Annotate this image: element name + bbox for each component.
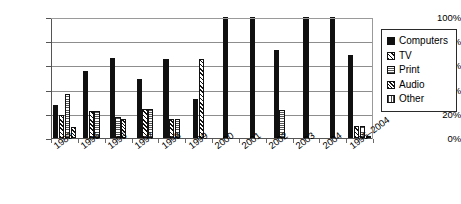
- legend-swatch-icon: [387, 81, 395, 89]
- x-tick-mark: [373, 139, 374, 143]
- bar: [274, 50, 279, 138]
- legend-item: Print: [387, 63, 452, 78]
- y-tick-label: 100%: [417, 13, 461, 23]
- legend-item-label: Audio: [399, 80, 425, 90]
- gridline: [52, 42, 373, 43]
- bar: [53, 105, 58, 138]
- legend-swatch-icon: [387, 66, 395, 74]
- plot-frame-top: [51, 18, 373, 19]
- bar: [110, 58, 115, 138]
- legend-item: TV: [387, 49, 452, 64]
- legend-item-label: Computers: [399, 36, 448, 46]
- gridline: [52, 66, 373, 67]
- x-tick-mark: [51, 139, 52, 143]
- bar: [250, 17, 255, 138]
- legend-item: Computers: [387, 34, 452, 49]
- bar: [223, 17, 228, 138]
- bar-chart: 0%20%40%60%80%100% 198319951996199719981…: [0, 0, 461, 204]
- legend-item: Audio: [387, 78, 452, 93]
- bar: [137, 79, 142, 138]
- legend-item-label: Other: [399, 94, 424, 104]
- chart-legend: ComputersTVPrintAudioOther: [381, 29, 457, 112]
- plot-frame-right: [372, 18, 373, 139]
- gridline: [52, 91, 373, 92]
- legend-swatch-icon: [387, 95, 395, 103]
- bar: [83, 71, 88, 138]
- plot-area: [51, 18, 373, 139]
- legend-item-label: Print: [399, 65, 420, 75]
- legend-swatch-icon: [387, 52, 395, 60]
- bar: [330, 17, 335, 138]
- bar: [199, 59, 204, 138]
- bar: [348, 55, 353, 138]
- y-tick-label: 0%: [417, 134, 461, 144]
- bar: [163, 59, 168, 138]
- legend-swatch-icon: [387, 37, 395, 45]
- gridline: [52, 115, 373, 116]
- legend-item: Other: [387, 92, 452, 107]
- legend-item-label: TV: [399, 51, 412, 61]
- bar: [303, 17, 308, 138]
